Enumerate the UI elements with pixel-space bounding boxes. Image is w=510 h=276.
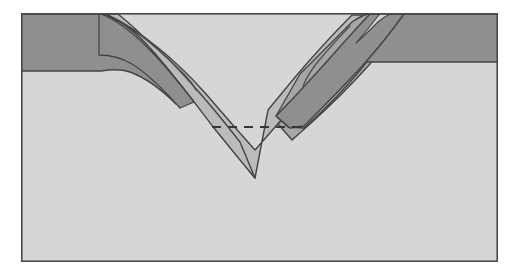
block-interior bbox=[21, 13, 498, 262]
figure-root: Geologic cross section of a V-shaped syn… bbox=[0, 0, 510, 276]
cross-section-diagram bbox=[0, 0, 510, 276]
paper-texture-overlay bbox=[21, 13, 498, 262]
